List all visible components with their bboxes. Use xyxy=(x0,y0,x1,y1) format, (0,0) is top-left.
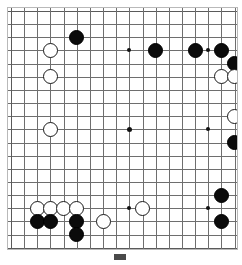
grid-line-horizontal xyxy=(8,37,238,38)
black-stone[interactable] xyxy=(69,30,84,45)
black-stone[interactable] xyxy=(148,43,163,58)
grid-line-horizontal xyxy=(8,248,238,249)
grid-line-horizontal xyxy=(8,90,238,91)
grid-line-horizontal xyxy=(8,11,238,12)
go-board-figure xyxy=(0,0,242,265)
grid-line-horizontal xyxy=(8,169,238,170)
white-stone[interactable] xyxy=(227,69,238,84)
grid-line-horizontal xyxy=(8,116,238,117)
figure-caption xyxy=(0,252,242,265)
grid-line-vertical xyxy=(90,8,91,250)
black-stone[interactable] xyxy=(188,43,203,58)
black-stone[interactable] xyxy=(227,135,238,150)
white-stone[interactable] xyxy=(43,122,58,137)
black-stone[interactable] xyxy=(214,43,229,58)
white-stone[interactable] xyxy=(43,43,58,58)
grid-line-horizontal xyxy=(8,24,238,25)
grid-line-vertical xyxy=(235,8,236,250)
grid-line-vertical xyxy=(116,8,117,250)
black-stone[interactable] xyxy=(214,188,229,203)
white-stone[interactable] xyxy=(96,214,111,229)
go-board[interactable] xyxy=(7,7,238,250)
grid-line-horizontal xyxy=(8,103,238,104)
grid-line-vertical xyxy=(169,8,170,250)
grid-line-horizontal xyxy=(8,182,238,183)
black-stone[interactable] xyxy=(214,214,229,229)
grid-line-horizontal xyxy=(8,156,238,157)
grid-line-vertical xyxy=(11,8,12,250)
grid-line-vertical xyxy=(24,8,25,250)
white-stone[interactable] xyxy=(227,109,238,124)
grid-line-vertical xyxy=(182,8,183,250)
grid-line-horizontal xyxy=(8,195,238,196)
white-stone[interactable] xyxy=(135,201,150,216)
grid-line-horizontal xyxy=(8,64,238,65)
black-stone[interactable] xyxy=(43,214,58,229)
grid-line-horizontal xyxy=(8,235,238,236)
grid-line-horizontal xyxy=(8,143,238,144)
figure-marker-icon xyxy=(114,254,126,260)
